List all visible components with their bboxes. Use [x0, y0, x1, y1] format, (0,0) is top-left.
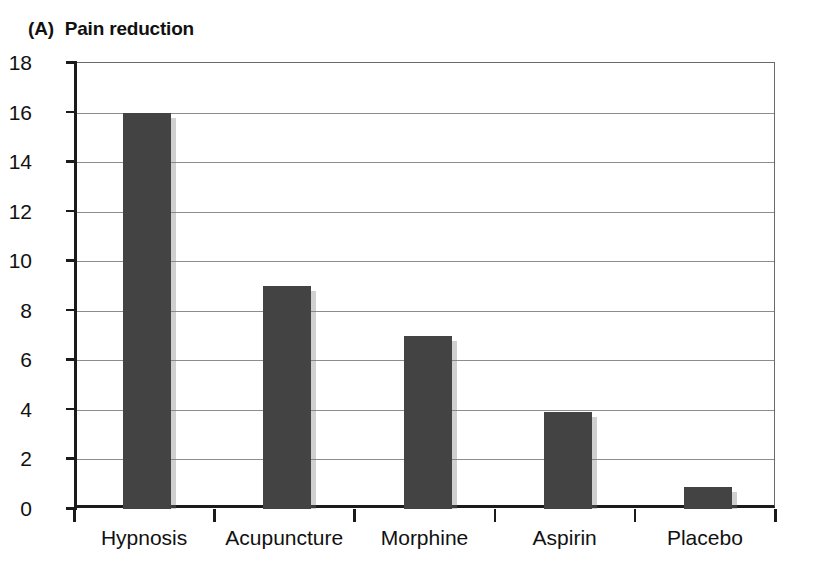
y-tick-mark	[66, 259, 77, 262]
x-tick-label-morphine: Morphine	[354, 527, 494, 548]
panel-label: (A)	[28, 18, 54, 40]
chart-title-text: Pain reduction	[65, 18, 194, 40]
gridline	[77, 162, 774, 163]
x-tick-mark	[774, 509, 777, 522]
x-tick-label-aspirin: Aspirin	[495, 527, 635, 548]
y-tick-label: 0	[20, 498, 32, 519]
y-tick-label: 14	[9, 151, 32, 172]
y-tick-label: 10	[9, 250, 32, 271]
x-tick-label-placebo: Placebo	[635, 527, 775, 548]
gridline	[77, 113, 774, 114]
x-tick-mark	[353, 509, 356, 522]
x-tick-mark	[213, 509, 216, 522]
bar-chart-figure: (A) Pain reduction 024681012141618 Hypno…	[0, 0, 818, 563]
y-tick-mark	[66, 160, 77, 163]
x-tick-mark	[494, 509, 497, 522]
y-tick-mark	[66, 309, 77, 312]
x-tick-label-hypnosis: Hypnosis	[74, 527, 214, 548]
y-tick-mark	[66, 408, 77, 411]
y-tick-label: 12	[9, 201, 32, 222]
y-tick-label: 8	[20, 300, 32, 321]
gridline	[77, 311, 774, 312]
bar-acupuncture	[263, 286, 311, 509]
y-tick-mark	[66, 210, 77, 213]
y-tick-label: 16	[9, 102, 32, 123]
gridline	[77, 212, 774, 213]
y-tick-mark	[66, 358, 77, 361]
gridline	[77, 261, 774, 262]
bar-placebo	[684, 487, 732, 509]
y-tick-mark	[66, 111, 77, 114]
x-tick-mark	[73, 509, 76, 522]
plot-area	[74, 62, 775, 508]
y-tick-label: 6	[20, 349, 32, 370]
y-tick-mark	[66, 61, 77, 64]
bar-morphine	[404, 336, 452, 509]
y-tick-label: 4	[20, 399, 32, 420]
x-tick-mark	[634, 509, 637, 522]
bar-hypnosis	[123, 113, 171, 509]
y-tick-label: 2	[20, 448, 32, 469]
y-tick-mark	[66, 457, 77, 460]
y-tick-label: 18	[9, 52, 32, 73]
x-tick-label-acupuncture: Acupuncture	[214, 527, 354, 548]
chart-title: (A) Pain reduction	[28, 18, 194, 40]
bar-aspirin	[544, 412, 592, 509]
